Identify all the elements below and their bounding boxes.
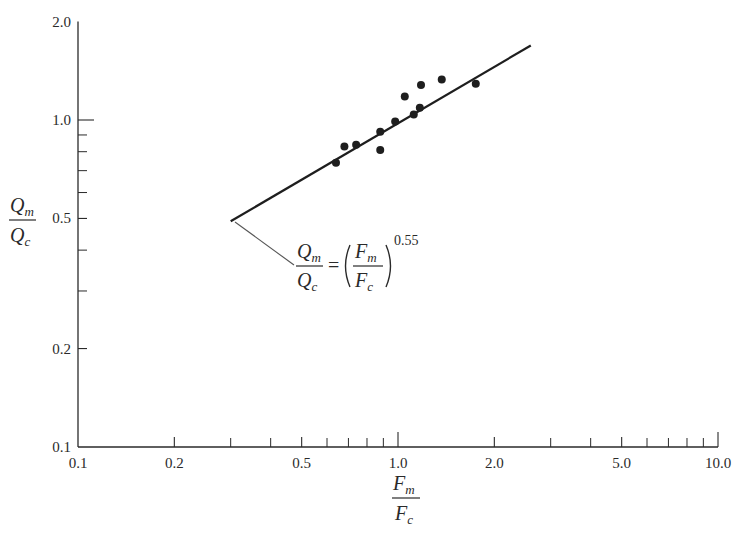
- data-point: [332, 159, 340, 167]
- data-point: [410, 110, 418, 118]
- eq-rhs-denominator: Fc: [354, 269, 373, 294]
- eq-lhs-denominator: Qc: [297, 269, 317, 294]
- y-tick-label: 0.2: [52, 341, 71, 357]
- data-point: [376, 128, 384, 136]
- data-point: [340, 142, 348, 150]
- x-label-numerator: Fm: [392, 472, 415, 497]
- eq-right-paren: [386, 245, 391, 287]
- x-tick-label: 0.1: [69, 455, 88, 471]
- y-tick-label: 1.0: [52, 112, 71, 128]
- x-tick-label: 0.5: [292, 455, 311, 471]
- data-point: [376, 146, 384, 154]
- x-axis-ticks: 0.10.20.51.02.05.010.0: [69, 432, 732, 471]
- log-log-chart: 0.10.20.51.02.05.010.0 0.10.20.51.02.0 Q…: [0, 0, 744, 534]
- y-tick-label: 0.1: [52, 439, 71, 455]
- data-point: [417, 81, 425, 89]
- data-point: [438, 76, 446, 84]
- data-point: [416, 104, 424, 112]
- y-axis-label: Qm Qc: [9, 194, 36, 249]
- x-label-denominator: Fc: [394, 502, 413, 527]
- x-axis-label: Fm Fc: [392, 472, 420, 527]
- data-point: [352, 141, 360, 149]
- eq-equals: =: [328, 254, 339, 276]
- x-tick-label: 0.2: [165, 455, 184, 471]
- data-point: [391, 117, 399, 125]
- x-tick-label: 10.0: [705, 455, 731, 471]
- x-tick-label: 5.0: [612, 455, 631, 471]
- y-label-denominator: Qc: [10, 224, 30, 249]
- x-tick-label: 1.0: [389, 455, 408, 471]
- y-tick-label: 0.5: [52, 210, 71, 226]
- eq-left-paren: [346, 245, 351, 287]
- y-tick-label: 2.0: [52, 14, 71, 30]
- data-point: [472, 80, 480, 88]
- y-label-numerator: Qm: [10, 194, 34, 219]
- eq-rhs-numerator: Fm: [354, 240, 377, 265]
- equation-annotation: Qm Qc = Fm Fc 0.55: [235, 222, 419, 294]
- eq-exponent: 0.55: [394, 233, 419, 248]
- y-axis-ticks: 0.10.20.51.02.0: [52, 14, 94, 455]
- eq-lhs-numerator: Qm: [297, 240, 321, 265]
- annotation-leader-line: [235, 222, 294, 265]
- x-tick-label: 2.0: [485, 455, 504, 471]
- data-point: [401, 92, 409, 100]
